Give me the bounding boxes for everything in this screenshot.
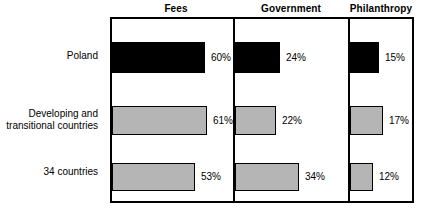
row-label-34-countries: 34 countries [0,166,98,178]
value-label-philanthropy-row2: 17% [389,116,409,126]
value-label-philanthropy-row1: 15% [385,53,405,63]
row-label-developing: Developing and transitional countries [0,108,98,132]
bar-philanthropy-row1 [350,42,379,73]
value-label-philanthropy-row3: 12% [379,172,399,182]
bar-government-row3 [235,163,299,191]
bar-government-row1 [235,42,280,73]
value-label-fees-row3: 53% [201,172,221,182]
bar-fees-row2 [112,106,207,135]
bar-fees-row3 [112,163,195,191]
bar-philanthropy-row3 [350,163,373,191]
bar-philanthropy-row2 [350,106,383,135]
value-label-fees-row1: 60% [211,53,231,63]
value-label-fees-row2: 61% [213,116,233,126]
grouped-bar-chart: Fees Government Philanthropy Poland Deve… [0,0,424,220]
bar-government-row2 [235,106,276,135]
row-label-poland: Poland [0,50,98,62]
column-header-philanthropy: Philanthropy [321,3,424,14]
value-label-government-row1: 24% [286,53,306,63]
value-label-government-row3: 34% [305,172,325,182]
column-header-fees: Fees [116,3,236,14]
value-label-government-row2: 22% [282,116,302,126]
bar-fees-row1 [112,42,205,73]
